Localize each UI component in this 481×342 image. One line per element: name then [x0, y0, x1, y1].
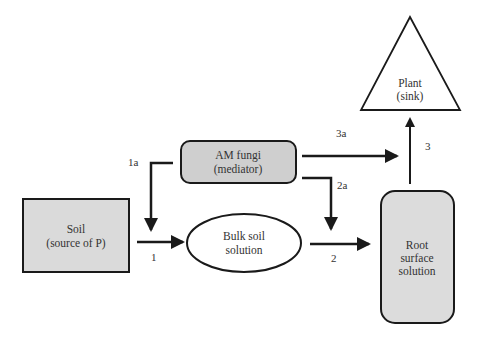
soil-box	[23, 199, 129, 272]
edge-2: 2	[310, 244, 369, 264]
root-surface-label-3: solution	[398, 265, 435, 277]
root-surface-label-2: surface	[400, 252, 433, 264]
root-surface-label-1: Root	[406, 239, 429, 251]
node-root-surface: Root surface solution	[381, 191, 454, 323]
edge-label-3: 3	[425, 140, 431, 152]
plant-label: Plant	[398, 77, 422, 89]
edge-label-1: 1	[151, 251, 157, 263]
edge-3: 3	[410, 119, 431, 184]
edge-label-3a: 3a	[336, 127, 347, 139]
edge-label-1a: 1a	[128, 156, 139, 168]
bulk-soil-ellipse	[187, 214, 301, 272]
edge-label-2: 2	[331, 252, 337, 264]
edge-label-2a: 2a	[337, 179, 348, 191]
soil-sublabel: (source of P)	[46, 237, 106, 250]
am-fungi-sublabel: (mediator)	[214, 163, 263, 176]
bulk-soil-label: Bulk soil	[223, 230, 265, 242]
edge-1a: 1a	[128, 156, 173, 230]
node-plant: Plant (sink)	[361, 17, 460, 110]
am-fungi-label: AM fungi	[215, 149, 261, 162]
arrow-1a	[151, 163, 173, 230]
node-am-fungi: AM fungi (mediator)	[181, 141, 296, 183]
am-fungi-box	[181, 141, 296, 183]
bulk-soil-sublabel: solution	[225, 244, 262, 256]
node-bulk-soil: Bulk soil solution	[187, 214, 301, 272]
soil-label: Soil	[67, 223, 86, 235]
node-soil: Soil (source of P)	[23, 199, 129, 272]
edge-1: 1	[137, 242, 183, 263]
edge-2a: 2a	[302, 178, 348, 229]
arrow-2a	[302, 178, 331, 229]
phosphorus-flow-diagram: Soil (source of P) AM fungi (mediator) B…	[0, 0, 481, 342]
edge-3a: 3a	[302, 127, 397, 156]
plant-sublabel: (sink)	[397, 90, 424, 103]
